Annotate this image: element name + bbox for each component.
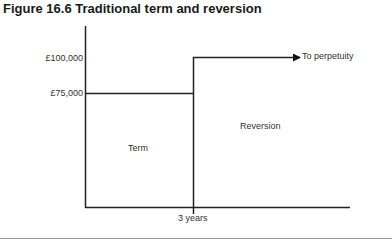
perpetuity-label: To perpetuity — [302, 51, 354, 61]
term-reversion-diagram — [0, 0, 392, 245]
y-tick-75k: £75,000 — [50, 88, 83, 98]
reversion-label: Reversion — [240, 121, 281, 131]
bottom-rule — [0, 238, 392, 239]
x-tick-3-years: 3 years — [178, 213, 208, 223]
term-label: Term — [128, 143, 148, 153]
y-tick-100k: £100,000 — [45, 53, 83, 63]
